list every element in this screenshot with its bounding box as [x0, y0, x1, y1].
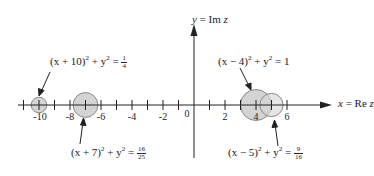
tick-label: 2	[223, 111, 228, 122]
tick-label: 6	[285, 111, 290, 122]
tick-label: 0	[185, 108, 190, 119]
tick-label: -2	[159, 111, 167, 122]
equation-circle-4: (x − 4)2 + y2 = 1	[218, 55, 289, 67]
x-axis-arrow-icon	[320, 102, 332, 109]
equation-circle-minus7: (x + 7)2 + y2 = 1625	[71, 146, 146, 161]
arrowhead-icon	[272, 120, 278, 128]
tick-label: -6	[97, 111, 105, 122]
y-axis-label: y = Im z	[192, 14, 228, 25]
tick-label: -4	[128, 111, 136, 122]
y-axis-arrow-icon	[191, 24, 198, 36]
tick-label: 4	[254, 111, 259, 122]
arrowhead-icon	[81, 118, 87, 126]
equation-circle-5: (x − 5)2 + y2 = 916	[228, 146, 303, 161]
arrowhead-icon	[39, 89, 45, 97]
equation-circle-minus10: (x + 10)2 + y2 = 14	[50, 55, 127, 70]
pointer-arrow-circle-minus10	[41, 72, 50, 92]
tick-label: -10	[33, 111, 46, 122]
x-axis-label: x = Re z	[338, 98, 374, 109]
tick-label: -8	[66, 111, 74, 122]
arrowhead-icon	[246, 83, 252, 90]
pointer-arrow-circle-4	[240, 68, 249, 86]
